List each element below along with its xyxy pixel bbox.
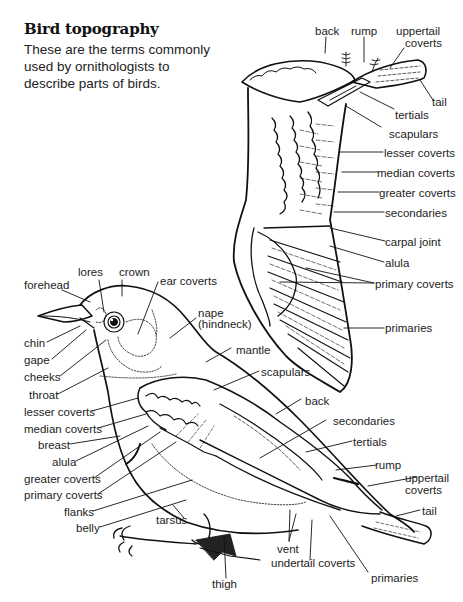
label-body-rump: rump (375, 459, 401, 471)
label-body-tertials: tertials (353, 436, 387, 448)
spread-wing-drawing (234, 52, 426, 392)
label-wing-secondaries: secondaries (385, 207, 447, 219)
label-belly: belly (76, 522, 100, 534)
label-undertail-coverts: undertail coverts (271, 557, 355, 569)
label-nape-line2: (hindneck) (198, 318, 252, 330)
label-wing-greater-coverts: greater coverts (379, 187, 456, 199)
label-body-back: back (305, 395, 329, 407)
label-body-secondaries: secondaries (333, 415, 395, 427)
label-wing-tail: tail (432, 96, 447, 108)
label-chin: chin (24, 337, 45, 349)
label-mantle: mantle (236, 344, 271, 356)
label-forehead: forehead (24, 279, 69, 291)
label-vent: vent (277, 543, 299, 555)
label-wing-primaries: primaries (385, 322, 432, 334)
label-body-uppertail-coverts-line1: uppertail (405, 472, 449, 484)
label-crown: crown (119, 266, 150, 278)
label-tarsus: tarsus (156, 514, 187, 526)
label-ear-coverts: ear coverts (160, 275, 217, 287)
label-body-greater-coverts: greater coverts (24, 473, 101, 485)
label-breast: breast (38, 439, 70, 451)
label-body-median-coverts: median coverts (24, 423, 102, 435)
label-wing-scapulars: scapulars (389, 128, 438, 140)
label-wing-uppertail-coverts-line2: coverts (405, 37, 442, 49)
label-flanks: flanks (64, 506, 94, 518)
label-wing-carpal-joint: carpal joint (385, 236, 441, 248)
label-wing-uppertail-coverts-line1: uppertail (396, 25, 440, 37)
label-wing-lesser-coverts: lesser coverts (384, 147, 455, 159)
label-wing-back: back (315, 25, 339, 37)
label-body-alula: alula (52, 456, 76, 468)
label-body-uppertail-coverts-line2: coverts (405, 484, 442, 496)
label-cheeks: cheeks (24, 371, 60, 383)
label-wing-alula: alula (385, 257, 409, 269)
label-body-primary-coverts: primary coverts (24, 489, 103, 501)
label-wing-rump: rump (351, 25, 377, 37)
label-wing-tertials: tertials (395, 109, 429, 121)
label-thigh: thigh (212, 578, 237, 590)
label-throat: throat (29, 389, 58, 401)
label-body-primaries: primaries (371, 572, 418, 584)
label-gape: gape (24, 354, 50, 366)
label-body-scapulars: scapulars (261, 366, 310, 378)
label-body-tail: tail (422, 505, 437, 517)
label-wing-median-coverts: median coverts (377, 167, 455, 179)
label-body-lesser-coverts: lesser coverts (24, 406, 95, 418)
label-lores: lores (78, 266, 103, 278)
label-wing-primary-coverts: primary coverts (375, 278, 454, 290)
